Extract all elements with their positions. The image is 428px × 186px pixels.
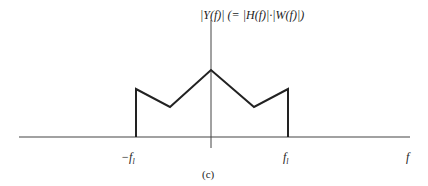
tick-label-neg-fl: −fl [121,151,135,166]
y-axis-label-text: |Y(f)| (= |H(f)|·|W(f)|) [200,8,304,22]
tick-label-pos-fl: fl [283,151,289,166]
spectrum-diagram [0,0,428,186]
tick-neg-sub: l [132,157,134,166]
x-axis-label: f [406,151,409,163]
figure-caption: (c) [202,169,214,180]
tick-pos-sub: l [286,157,288,166]
tick-neg-text: −f [121,150,132,164]
y-axis-label: |Y(f)| (= |H(f)|·|W(f)|) [200,9,304,21]
spectrum-curve [136,70,288,137]
